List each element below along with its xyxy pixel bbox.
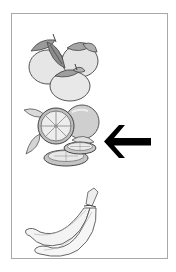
orange-icon: [22, 102, 106, 172]
bananas-picture[interactable]: bananas: [22, 186, 108, 258]
oranges-picture[interactable]: oranges: [22, 102, 106, 172]
banana-icon: [22, 186, 108, 258]
persimmons-picture[interactable]: persimmons: [25, 24, 107, 104]
arrow-left-icon: [104, 124, 152, 159]
arrow-pointer: [104, 124, 152, 159]
persimmon-icon: [25, 24, 107, 104]
worksheet-card: persimmons oranges: [11, 13, 168, 259]
